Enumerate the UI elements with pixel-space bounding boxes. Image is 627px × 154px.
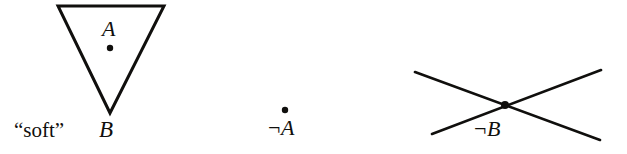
point-not-a-dot <box>282 107 288 113</box>
crossing-intersection-dot <box>501 101 509 109</box>
operand-b: B <box>487 116 500 141</box>
crossing-line-ascending <box>432 70 601 134</box>
panel-not-a-graphic <box>282 107 288 113</box>
operand-a: A <box>281 115 294 140</box>
label-not-a: ¬A <box>268 117 294 139</box>
logic-diagram-figure: A “soft” B ¬A ¬B <box>0 0 627 154</box>
point-a-dot <box>107 45 113 51</box>
label-b-apex: B <box>99 118 113 141</box>
negation-glyph-a: ¬ <box>268 115 281 140</box>
diagram-canvas <box>0 0 627 154</box>
negation-glyph-b: ¬ <box>474 116 487 141</box>
label-not-b: ¬B <box>474 118 500 140</box>
panel-not-b-graphic <box>415 70 601 140</box>
label-soft-qualifier: “soft” <box>14 120 64 141</box>
label-a-inside-triangle: A <box>102 18 115 40</box>
